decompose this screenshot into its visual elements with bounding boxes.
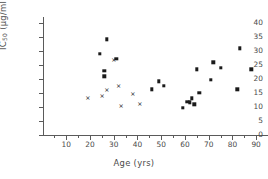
data-point-cross: [130, 91, 135, 96]
y-axis-line: [43, 17, 44, 135]
data-point-cross: [118, 103, 123, 108]
x-tick-label: 80: [228, 141, 237, 148]
x-tick-label: 40: [133, 141, 142, 148]
y-tick: [39, 121, 43, 122]
y-tick: [39, 135, 43, 136]
data-point-dot: [235, 88, 238, 91]
data-point-dot: [190, 97, 193, 100]
y-tick: [39, 79, 43, 80]
x-tick-minor: [221, 136, 222, 139]
data-point-cross: [111, 56, 116, 61]
data-point-dot: [197, 91, 200, 94]
data-point-dot: [219, 66, 222, 69]
data-point-dot: [212, 60, 215, 63]
data-point-dot: [105, 37, 108, 40]
x-tick-label: 90: [251, 141, 260, 148]
data-point-dot: [193, 103, 196, 106]
y-axis-label: IC50 (µg/ml): [0, 0, 8, 50]
x-tick-minor: [78, 136, 79, 139]
data-point-dot: [162, 84, 165, 87]
data-point-dot: [238, 46, 241, 49]
data-point-dot: [181, 106, 184, 109]
data-point-cross: [85, 95, 90, 100]
data-point-dot: [195, 67, 198, 70]
y-tick-label: 20: [254, 75, 263, 82]
x-tick-label: 30: [109, 141, 118, 148]
data-point-cross: [104, 86, 109, 91]
x-tick-label: 10: [62, 141, 71, 148]
x-tick-label: 50: [157, 141, 166, 148]
data-point-dot: [188, 101, 191, 104]
y-tick-label: 25: [254, 61, 263, 68]
y-tick-label: 40: [254, 19, 263, 26]
y-tick-label: 15: [254, 89, 263, 96]
x-tick-minor: [102, 136, 103, 139]
y-tick: [39, 37, 43, 38]
data-point-dot: [103, 74, 106, 77]
x-tick-minor: [149, 136, 150, 139]
data-point-dot: [209, 78, 212, 81]
x-tick-minor: [54, 136, 55, 139]
x-tick-minor: [173, 136, 174, 139]
data-point-cross: [116, 82, 121, 87]
y-tick: [39, 93, 43, 94]
y-tick: [39, 107, 43, 108]
data-point-dot: [157, 80, 160, 83]
x-tick-minor: [197, 136, 198, 139]
data-point-dot: [150, 88, 153, 91]
x-axis-line: [43, 135, 268, 136]
data-point-dot: [98, 52, 101, 55]
y-tick-label: 0: [258, 131, 263, 138]
x-tick-minor: [126, 136, 127, 139]
data-point-dot: [103, 69, 106, 72]
x-tick-label: 20: [85, 141, 94, 148]
y-tick: [39, 65, 43, 66]
plot-area: 0510152025303540 102030405060708090: [43, 17, 268, 135]
y-tick-label: 10: [254, 103, 263, 110]
y-tick: [39, 51, 43, 52]
y-tick-label: 35: [254, 33, 263, 40]
x-tick-minor: [244, 136, 245, 139]
y-tick-label: 5: [258, 117, 263, 124]
data-point-cross: [99, 92, 104, 97]
x-tick-label: 70: [204, 141, 213, 148]
y-tick-label: 30: [254, 47, 263, 54]
x-tick-label: 60: [180, 141, 189, 148]
data-point-cross: [137, 101, 142, 106]
scatter-chart-figure: 0510152025303540 102030405060708090 IC50…: [0, 0, 268, 179]
x-axis-label: Age (yrs): [0, 158, 268, 168]
y-tick: [39, 23, 43, 24]
data-point-dot: [250, 67, 253, 70]
